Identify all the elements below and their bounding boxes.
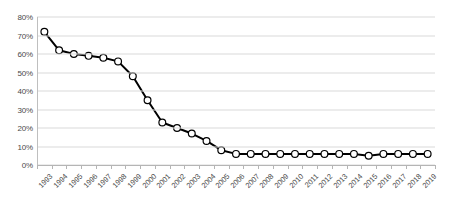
line-chart: 80%70%60%50%40%30%20%10%0% 1993199419951… bbox=[0, 0, 450, 207]
x-axis-tick-mark bbox=[81, 165, 82, 169]
x-axis-tick-mark bbox=[184, 165, 185, 169]
x-axis-tick-mark bbox=[317, 165, 318, 169]
x-axis-tick-mark bbox=[199, 165, 200, 169]
x-axis-tick-mark bbox=[258, 165, 259, 169]
x-axis-tick-mark bbox=[288, 165, 289, 169]
x-axis-tick-mark bbox=[96, 165, 97, 169]
x-axis-tick-mark bbox=[420, 165, 421, 169]
x-axis-tick-mark bbox=[125, 165, 126, 169]
x-axis-labels: 1993199419951996199719981999200020012002… bbox=[0, 0, 450, 207]
x-axis-tick-mark bbox=[332, 165, 333, 169]
x-axis-tick-mark bbox=[376, 165, 377, 169]
x-axis-tick-mark bbox=[140, 165, 141, 169]
x-axis-tick-mark bbox=[37, 165, 38, 169]
x-axis-tick-mark bbox=[361, 165, 362, 169]
x-axis-tick-mark bbox=[243, 165, 244, 169]
x-axis-tick-mark bbox=[435, 165, 436, 169]
x-axis-tick-mark bbox=[66, 165, 67, 169]
x-axis-tick-mark bbox=[155, 165, 156, 169]
x-axis-tick-mark bbox=[214, 165, 215, 169]
x-axis-tick-mark bbox=[406, 165, 407, 169]
x-axis-tick-mark bbox=[302, 165, 303, 169]
x-axis-tick-mark bbox=[111, 165, 112, 169]
x-axis-tick-mark bbox=[170, 165, 171, 169]
x-axis-tick-mark bbox=[347, 165, 348, 169]
x-axis-tick-mark bbox=[391, 165, 392, 169]
x-axis-tick-mark bbox=[52, 165, 53, 169]
x-axis-tick-mark bbox=[229, 165, 230, 169]
x-axis-tick-mark bbox=[273, 165, 274, 169]
